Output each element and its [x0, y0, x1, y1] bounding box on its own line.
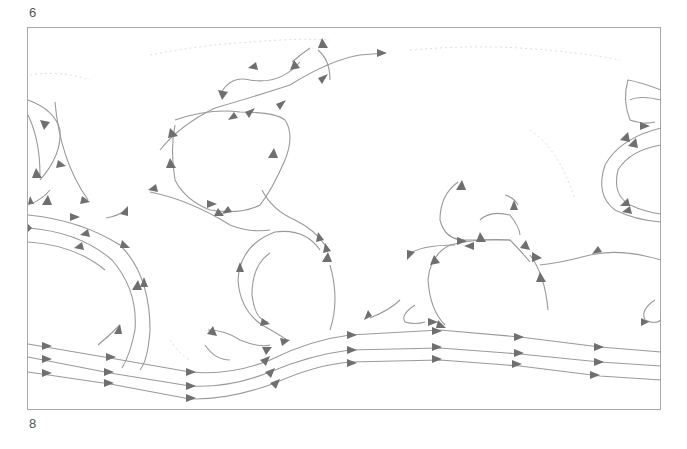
pacific-east-gyre — [602, 80, 661, 326]
arrows-eastward — [42, 327, 604, 402]
north-atlantic-gyre — [148, 49, 387, 253]
south-atlantic-gyre — [205, 231, 335, 360]
ocean-currents-map — [0, 0, 687, 449]
landmass-outlines — [30, 39, 620, 360]
antarctic-circumpolar-current — [28, 327, 661, 402]
north-pacific-west — [28, 100, 128, 218]
indian-ocean-gyre — [364, 180, 661, 328]
